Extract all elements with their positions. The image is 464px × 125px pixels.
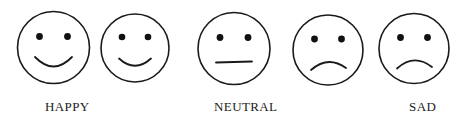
label-neutral: NEUTRAL	[214, 100, 277, 113]
facial-rating-scale: HAPPY NEUTRAL SAD	[0, 0, 464, 125]
label-happy: HAPPY	[45, 100, 90, 113]
face-outline-circle	[379, 14, 449, 84]
sad-face[interactable]	[0, 0, 464, 100]
left-eye-icon	[397, 34, 404, 41]
right-eye-icon	[424, 34, 431, 41]
label-sad: SAD	[409, 100, 436, 113]
